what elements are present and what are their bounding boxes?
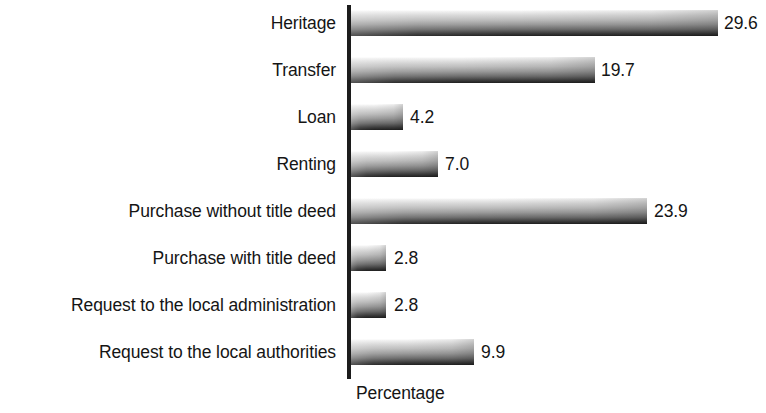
bar-shading bbox=[351, 10, 718, 36]
bar-row: Transfer 19.7 bbox=[0, 55, 766, 85]
category-label: Request to the local authorities bbox=[0, 337, 336, 367]
bar-shading bbox=[351, 57, 595, 83]
bar-row: Renting 7.0 bbox=[0, 149, 766, 179]
category-label: Request to the local administration bbox=[0, 290, 336, 320]
bar-row: Purchase without title deed 23.9 bbox=[0, 196, 766, 226]
horizontal-bar-chart: Heritage 29.6 Transfer 19.7 Loan 4.2 bbox=[0, 0, 766, 413]
bar-row: Purchase with title deed 2.8 bbox=[0, 243, 766, 273]
bar-purchase-without-title-deed bbox=[351, 198, 647, 224]
bar-shading bbox=[351, 339, 474, 365]
bar-renting bbox=[351, 151, 438, 177]
bar-shading bbox=[351, 151, 438, 177]
bar-row: Heritage 29.6 bbox=[0, 8, 766, 38]
bar-request-local-authorities bbox=[351, 339, 474, 365]
value-label: 19.7 bbox=[601, 55, 635, 85]
value-label: 4.2 bbox=[410, 102, 434, 132]
bar-row: Request to the local administration 2.8 bbox=[0, 290, 766, 320]
category-label: Loan bbox=[0, 102, 336, 132]
plot-area: Heritage 29.6 Transfer 19.7 Loan 4.2 bbox=[0, 0, 766, 413]
value-label: 23.9 bbox=[654, 196, 688, 226]
value-label: 9.9 bbox=[481, 337, 505, 367]
category-label: Renting bbox=[0, 149, 336, 179]
x-axis-title: Percentage bbox=[356, 383, 445, 404]
bar-shading bbox=[351, 245, 386, 271]
bar-shading bbox=[351, 198, 647, 224]
bar-shading bbox=[351, 104, 403, 130]
value-label: 2.8 bbox=[394, 243, 418, 273]
bar-heritage bbox=[351, 10, 718, 36]
bar-purchase-with-title-deed bbox=[351, 245, 386, 271]
value-label: 29.6 bbox=[724, 8, 758, 38]
value-label: 7.0 bbox=[445, 149, 469, 179]
bar-request-local-administration bbox=[351, 292, 386, 318]
bar-loan bbox=[351, 104, 403, 130]
category-label: Transfer bbox=[0, 55, 336, 85]
value-label: 2.8 bbox=[394, 290, 418, 320]
category-label: Purchase with title deed bbox=[0, 243, 336, 273]
bar-shading bbox=[351, 292, 386, 318]
category-label: Heritage bbox=[0, 8, 336, 38]
category-label: Purchase without title deed bbox=[0, 196, 336, 226]
bar-transfer bbox=[351, 57, 595, 83]
bar-row: Loan 4.2 bbox=[0, 102, 766, 132]
bar-row: Request to the local authorities 9.9 bbox=[0, 337, 766, 367]
